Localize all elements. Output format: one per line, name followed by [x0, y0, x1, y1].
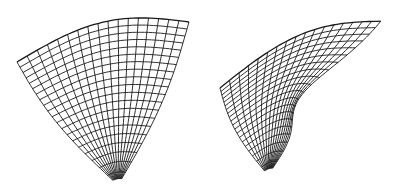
right-saddle-wireframe: [220, 21, 381, 171]
left-paraboloid-wireframe: [17, 18, 189, 181]
figure-canvas: [0, 0, 400, 192]
